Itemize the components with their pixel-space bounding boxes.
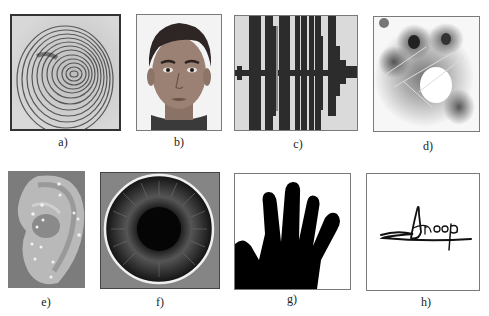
ear-image	[8, 171, 85, 288]
hand-silhouette-image	[234, 173, 351, 290]
panel-e-label: e)	[41, 295, 50, 310]
iris-image	[100, 172, 220, 289]
panel-g-label: g)	[287, 292, 297, 307]
palmprint-image	[373, 16, 480, 132]
fingerprint-image	[10, 14, 121, 131]
face-image	[136, 14, 222, 131]
panel-a-label: a)	[58, 135, 67, 150]
panel-h-label: h)	[421, 295, 431, 310]
signature-image	[366, 173, 480, 291]
panel-d-label: d)	[423, 139, 433, 154]
panel-f-label: f)	[156, 295, 164, 310]
panel-c-label: c)	[293, 137, 302, 152]
voice-waveform-image	[234, 15, 358, 131]
panel-b-label: b)	[174, 135, 184, 150]
